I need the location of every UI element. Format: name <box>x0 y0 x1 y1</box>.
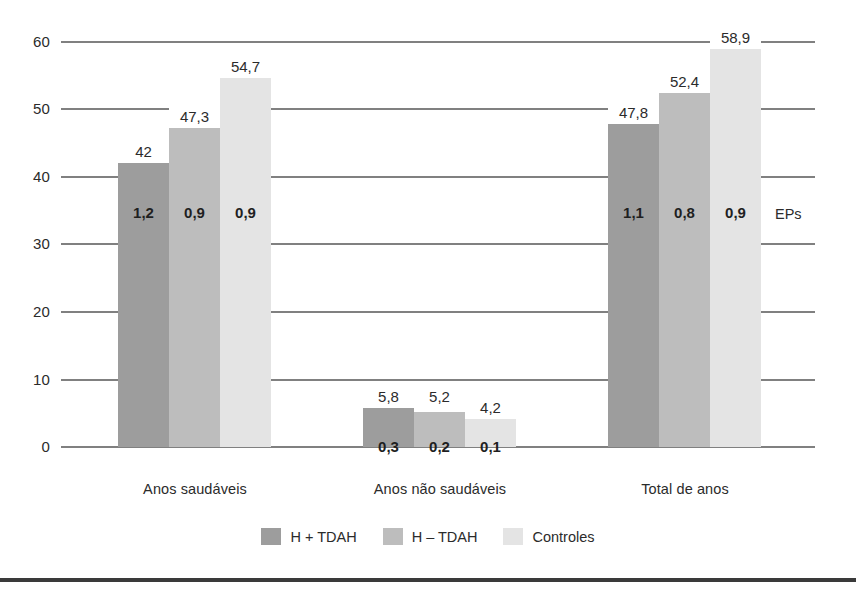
legend-item-h-menos-tdah[interactable]: H – TDAH <box>383 528 478 545</box>
error-label-anos-saudaveis-controles: 0,9 <box>220 204 271 222</box>
error-label-anos-nao-saudaveis-controles: 0,1 <box>465 438 516 456</box>
y-tick-label-30: 30 <box>0 235 50 252</box>
value-label-anos-nao-saudaveis-h-menos-tdah: 5,2 <box>414 388 465 406</box>
eps-annotation: EPs <box>772 205 805 223</box>
bar-anos-saudaveis-h-menos-tdah[interactable] <box>169 128 220 447</box>
plot-area: 60 50 40 30 20 10 0 42 47,3 54,7 1,2 0,9… <box>0 0 856 590</box>
value-label-total-de-anos-h-mais-tdah: 47,8 <box>608 104 659 122</box>
error-label-total-de-anos-h-mais-tdah: 1,1 <box>608 204 659 222</box>
value-label-total-de-anos-h-menos-tdah: 52,4 <box>659 73 710 91</box>
y-tick-label-40: 40 <box>0 168 50 185</box>
legend-swatch-icon-h-mais-tdah <box>261 528 281 545</box>
error-label-anos-nao-saudaveis-h-mais-tdah: 0,3 <box>363 438 414 456</box>
legend-item-controles[interactable]: Controles <box>503 528 594 545</box>
legend-label-controles: Controles <box>532 529 594 545</box>
value-label-anos-saudaveis-h-menos-tdah: 47,3 <box>169 108 220 126</box>
bar-anos-saudaveis-controles[interactable] <box>220 78 271 447</box>
error-label-total-de-anos-h-menos-tdah: 0,8 <box>659 204 710 222</box>
value-label-total-de-anos-controles: 58,9 <box>710 29 761 47</box>
error-label-anos-saudaveis-h-mais-tdah: 1,2 <box>118 204 169 222</box>
value-label-anos-nao-saudaveis-h-mais-tdah: 5,8 <box>363 388 414 406</box>
value-label-anos-saudaveis-controles: 54,7 <box>220 58 271 76</box>
legend-label-h-mais-tdah: H + TDAH <box>290 529 356 545</box>
error-label-anos-nao-saudaveis-h-menos-tdah: 0,2 <box>414 438 465 456</box>
bottom-divider <box>0 578 856 582</box>
y-tick-label-20: 20 <box>0 303 50 320</box>
gridline-60 <box>61 41 815 43</box>
bar-chart: 60 50 40 30 20 10 0 42 47,3 54,7 1,2 0,9… <box>0 0 856 590</box>
legend-swatch-icon-h-menos-tdah <box>383 528 403 545</box>
legend-item-h-mais-tdah[interactable]: H + TDAH <box>261 528 356 545</box>
y-tick-label-0: 0 <box>0 438 50 455</box>
y-tick-label-10: 10 <box>0 371 50 388</box>
x-category-label-total-de-anos: Total de anos <box>565 481 805 497</box>
value-label-anos-nao-saudaveis-controles: 4,2 <box>465 399 516 417</box>
value-label-anos-saudaveis-h-mais-tdah: 42 <box>118 143 169 161</box>
y-tick-label-50: 50 <box>0 100 50 117</box>
y-tick-label-60: 60 <box>0 33 50 50</box>
legend-swatch-icon-controles <box>503 528 523 545</box>
bar-total-de-anos-h-mais-tdah[interactable] <box>608 124 659 447</box>
legend-label-h-menos-tdah: H – TDAH <box>412 529 478 545</box>
error-label-anos-saudaveis-h-menos-tdah: 0,9 <box>169 204 220 222</box>
chart-legend: H + TDAH H – TDAH Controles <box>0 528 856 545</box>
error-label-total-de-anos-controles: 0,9 <box>710 204 761 222</box>
x-category-label-anos-nao-saudaveis: Anos não saudáveis <box>320 481 560 497</box>
x-category-label-anos-saudaveis: Anos saudáveis <box>75 481 315 497</box>
bar-total-de-anos-h-menos-tdah[interactable] <box>659 93 710 447</box>
bar-total-de-anos-controles[interactable] <box>710 49 761 447</box>
